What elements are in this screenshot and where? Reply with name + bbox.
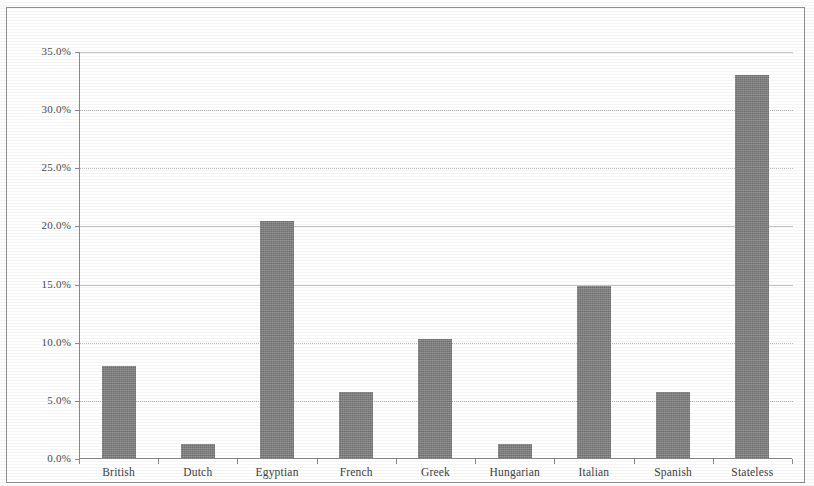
bar — [181, 444, 215, 459]
bar-slot — [158, 52, 237, 459]
x-axis-tick-label: Italian — [554, 466, 633, 478]
bar — [735, 75, 769, 459]
bar-slot — [713, 52, 792, 459]
x-axis-origin-tick-mark — [79, 459, 80, 464]
chart-outer-border: 0.0%5.0%10.0%15.0%20.0%25.0%30.0%35.0%Br… — [6, 7, 805, 483]
bar — [260, 221, 294, 459]
x-axis-tick-mark — [792, 459, 793, 464]
x-axis-tick-label: Egyptian — [237, 466, 316, 478]
bar — [102, 366, 136, 459]
x-axis-tick-label: French — [317, 466, 396, 478]
x-axis-tick-mark — [237, 459, 238, 464]
bar-slot — [317, 52, 396, 459]
y-axis-tick-label: 15.0% — [7, 278, 71, 290]
x-axis-tick-mark — [634, 459, 635, 464]
bar-slot — [396, 52, 475, 459]
x-axis-tick-label: Stateless — [713, 466, 792, 478]
bar-slot — [237, 52, 316, 459]
x-axis-tick-label: British — [79, 466, 158, 478]
x-axis-tick-mark — [554, 459, 555, 464]
x-axis-tick-mark — [396, 459, 397, 464]
x-axis-tick-label: Greek — [396, 466, 475, 478]
bar — [656, 392, 690, 459]
bar — [418, 339, 452, 459]
bar — [498, 444, 532, 459]
bar-chart-figure: 0.0%5.0%10.0%15.0%20.0%25.0%30.0%35.0%Br… — [0, 0, 814, 486]
x-axis-tick-label: Spanish — [634, 466, 713, 478]
y-axis-tick-label: 20.0% — [7, 219, 71, 231]
x-axis-tick-mark — [475, 459, 476, 464]
x-axis-tick-label: Dutch — [158, 466, 237, 478]
bar-slot — [554, 52, 633, 459]
x-axis-tick-mark — [317, 459, 318, 464]
y-axis-tick-label: 30.0% — [7, 103, 71, 115]
y-axis-tick-label: 5.0% — [7, 394, 71, 406]
x-axis-tick-mark — [158, 459, 159, 464]
y-axis-tick-label: 10.0% — [7, 336, 71, 348]
y-axis-tick-label: 0.0% — [7, 452, 71, 464]
bar — [577, 286, 611, 459]
bar-slot — [475, 52, 554, 459]
y-axis-tick-label: 35.0% — [7, 45, 71, 57]
bar-slot — [634, 52, 713, 459]
bar — [339, 392, 373, 459]
y-axis-tick-label: 25.0% — [7, 161, 71, 173]
x-axis-tick-label: Hungarian — [475, 466, 554, 478]
bar-series — [79, 52, 792, 459]
bar-slot — [79, 52, 158, 459]
x-axis-tick-mark — [713, 459, 714, 464]
